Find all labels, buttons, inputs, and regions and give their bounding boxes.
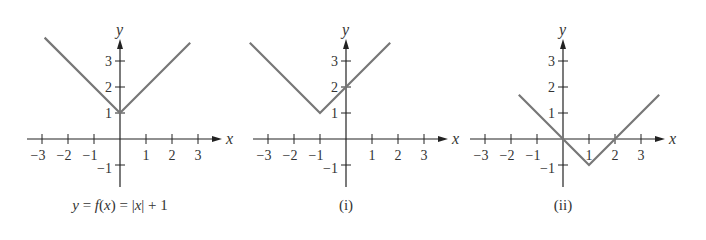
svg-text:1: 1: [331, 106, 338, 121]
svg-text:−1: −1: [540, 161, 555, 176]
caption-ii: (ii): [554, 197, 572, 214]
svg-text:−3: −3: [257, 148, 272, 163]
svg-text:−2: −2: [57, 148, 72, 163]
svg-text:3: 3: [548, 54, 555, 69]
svg-text:2: 2: [548, 80, 555, 95]
svg-text:2: 2: [105, 80, 112, 95]
svg-text:3: 3: [331, 54, 338, 69]
svg-text:−1: −1: [526, 148, 541, 163]
svg-text:3: 3: [195, 148, 202, 163]
svg-text:x: x: [668, 130, 676, 147]
svg-text:2: 2: [395, 148, 402, 163]
svg-text:−1: −1: [83, 148, 98, 163]
svg-text:2: 2: [169, 148, 176, 163]
graph-0: xy−3−2−1123−1123: [27, 21, 233, 187]
svg-text:1: 1: [548, 106, 555, 121]
svg-text:−1: −1: [97, 161, 112, 176]
svg-text:x: x: [225, 130, 233, 147]
graph-1: xy−3−2−1123−1123: [250, 21, 459, 187]
svg-text:1: 1: [369, 148, 376, 163]
svg-text:y: y: [114, 21, 124, 39]
svg-text:3: 3: [105, 54, 112, 69]
svg-text:1: 1: [105, 106, 112, 121]
svg-text:−3: −3: [474, 148, 489, 163]
svg-text:−3: −3: [31, 148, 46, 163]
svg-text:−1: −1: [323, 161, 338, 176]
graph-2: xy−3−2−1123−1123: [470, 21, 676, 187]
svg-text:1: 1: [586, 148, 593, 163]
svg-text:1: 1: [143, 148, 150, 163]
function-line: [250, 43, 390, 113]
svg-text:−2: −2: [283, 148, 298, 163]
caption-i: (i): [339, 197, 353, 214]
svg-text:−1: −1: [309, 148, 324, 163]
caption-f: y = f(x) = |x| + 1: [72, 197, 168, 214]
svg-text:x: x: [451, 130, 459, 147]
svg-text:−2: −2: [500, 148, 515, 163]
svg-text:3: 3: [421, 148, 428, 163]
svg-text:2: 2: [612, 148, 619, 163]
svg-text:y: y: [557, 21, 567, 39]
svg-text:2: 2: [331, 80, 338, 95]
svg-text:3: 3: [638, 148, 645, 163]
svg-text:y: y: [340, 21, 350, 39]
